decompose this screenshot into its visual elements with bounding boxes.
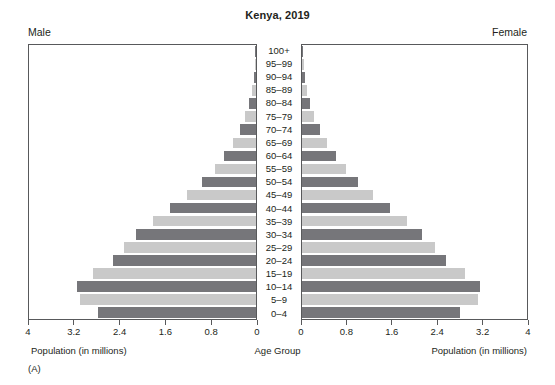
chart-title: Kenya, 2019 — [0, 9, 555, 21]
male-bar — [255, 59, 256, 70]
axis-tick-label: 1.6 — [385, 326, 398, 337]
female-bar — [302, 124, 320, 135]
male-bar — [80, 294, 256, 305]
male-bar — [233, 138, 256, 149]
axis-tick-label: 0 — [254, 326, 259, 337]
axis-tick — [301, 320, 302, 325]
female-row — [302, 110, 527, 123]
male-bar — [224, 151, 256, 162]
axis-tick — [73, 320, 74, 325]
axis-tick-label: 4 — [525, 326, 530, 337]
female-bar — [302, 255, 446, 266]
male-bar — [98, 307, 256, 318]
axis-tick-label: 0 — [298, 326, 303, 337]
female-bar — [302, 190, 373, 201]
panel-letter-label: (A) — [28, 363, 41, 374]
male-row — [29, 110, 256, 123]
female-bar — [302, 203, 390, 214]
male-bar — [187, 190, 256, 201]
female-row — [302, 293, 527, 306]
axis-tick-label: 1.6 — [159, 326, 172, 337]
female-bar — [302, 111, 314, 122]
male-bar — [252, 85, 256, 96]
male-row — [29, 215, 256, 228]
male-row — [29, 136, 256, 149]
male-bar-rows — [29, 45, 256, 319]
age-group-label: 15–19 — [257, 267, 301, 280]
age-group-label: 85–89 — [257, 83, 301, 96]
male-bar — [77, 281, 256, 292]
axis-tick — [482, 320, 483, 325]
male-bar — [255, 46, 256, 57]
age-group-label: 80–84 — [257, 97, 301, 110]
male-row — [29, 149, 256, 162]
axis-tick-label: 0.8 — [340, 326, 353, 337]
female-row — [302, 45, 527, 58]
age-group-label: 30–34 — [257, 228, 301, 241]
male-plot-panel — [28, 44, 257, 320]
female-bar — [302, 85, 307, 96]
axis-tick — [391, 320, 392, 325]
female-row — [302, 136, 527, 149]
female-bar — [302, 59, 304, 70]
male-row — [29, 280, 256, 293]
female-row — [302, 267, 527, 280]
female-row — [302, 306, 527, 319]
male-bar — [202, 177, 256, 188]
female-row — [302, 97, 527, 110]
male-bar — [113, 255, 256, 266]
age-group-label: 70–74 — [257, 123, 301, 136]
age-group-label: 25–29 — [257, 241, 301, 254]
female-bar — [302, 164, 346, 175]
axis-tick — [28, 320, 29, 325]
female-bar — [302, 242, 435, 253]
male-bar — [249, 98, 256, 109]
female-row — [302, 58, 527, 71]
female-bar — [302, 72, 305, 83]
axis-tick — [119, 320, 120, 325]
male-side-label: Male — [28, 26, 51, 38]
female-bar-rows — [302, 45, 527, 319]
male-row — [29, 58, 256, 71]
age-group-label: 90–94 — [257, 70, 301, 83]
female-row — [302, 254, 527, 267]
male-x-axis: 43.22.41.60.80 — [28, 320, 257, 342]
age-group-label: 0–4 — [257, 307, 301, 320]
axis-tick — [257, 320, 258, 325]
female-bar — [302, 138, 327, 149]
male-bar — [240, 124, 256, 135]
age-group-label: 40–44 — [257, 202, 301, 215]
female-axis-caption: Population (in millions) — [431, 345, 527, 356]
female-bar — [302, 46, 303, 57]
female-bar — [302, 151, 336, 162]
female-row — [302, 149, 527, 162]
age-group-label: 60–64 — [257, 149, 301, 162]
age-group-label: 5–9 — [257, 294, 301, 307]
male-row — [29, 123, 256, 136]
male-row — [29, 189, 256, 202]
male-row — [29, 293, 256, 306]
male-row — [29, 162, 256, 175]
male-bar — [254, 72, 256, 83]
male-row — [29, 71, 256, 84]
axis-tick-label: 2.4 — [431, 326, 444, 337]
age-group-label: 65–69 — [257, 136, 301, 149]
female-x-axis: 00.81.62.43.24 — [301, 320, 528, 342]
age-group-label: 35–39 — [257, 215, 301, 228]
axis-tick-label: 4 — [25, 326, 30, 337]
male-bar — [93, 268, 256, 279]
male-row — [29, 267, 256, 280]
female-row — [302, 228, 527, 241]
female-row — [302, 123, 527, 136]
age-group-label: 45–49 — [257, 189, 301, 202]
male-bar — [245, 111, 256, 122]
male-bar — [215, 164, 256, 175]
age-group-label: 55–59 — [257, 162, 301, 175]
female-bar — [302, 294, 478, 305]
axis-tick-label: 3.2 — [67, 326, 80, 337]
axis-tick — [437, 320, 438, 325]
female-bar — [302, 229, 422, 240]
male-bar — [153, 216, 256, 227]
male-row — [29, 306, 256, 319]
axis-tick — [211, 320, 212, 325]
